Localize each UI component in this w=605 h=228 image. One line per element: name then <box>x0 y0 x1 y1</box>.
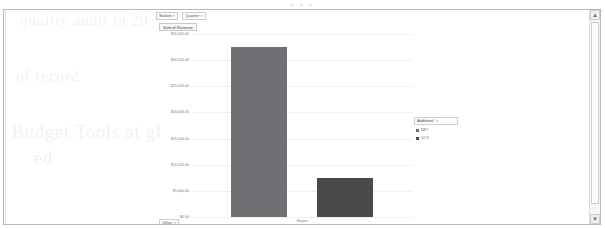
other-control[interactable]: Other ▾ <box>159 219 179 225</box>
legend-items: NETGCS <box>414 128 458 141</box>
y-axis-tick-label: $15,000.00 <box>159 137 189 142</box>
gridline <box>191 217 413 218</box>
legend-swatch-icon <box>416 137 419 140</box>
bar-net[interactable] <box>231 47 287 217</box>
measure-label[interactable]: Sum of Revenue <box>159 23 197 31</box>
plot-area <box>191 34 413 218</box>
filter-row: Station ▾ Quarter ▾ <box>156 12 206 20</box>
chevron-down-icon: ▾ <box>201 13 203 20</box>
filter-pill-quarter-label: Quarter <box>185 12 199 20</box>
chevron-down-icon: ▾ <box>174 220 176 225</box>
page-ghost-top-text: • • • <box>0 0 605 9</box>
gridline <box>191 60 413 61</box>
filter-pill-station[interactable]: Station ▾ <box>156 12 178 20</box>
y-axis-tick-label: $10,000.00 <box>159 163 189 168</box>
legend-item-label: NET <box>421 128 428 133</box>
legend-item-label: GCS <box>421 136 429 141</box>
y-axis-tick-label: $25,000.00 <box>159 84 189 89</box>
other-control-label: Other <box>162 219 172 225</box>
report-viewer-frame: quality audit in 20 of record Budget Too… <box>3 9 601 225</box>
scroll-down-icon[interactable]: ▼ <box>590 214 600 224</box>
y-axis: $35,000.00$30,000.00$25,000.00$20,000.00… <box>157 34 189 218</box>
filter-pill-station-label: Station <box>159 12 171 20</box>
legend-item[interactable]: NET <box>414 128 458 133</box>
scrollbar-thumb[interactable] <box>591 22 599 204</box>
legend-swatch-icon <box>416 129 419 132</box>
gridline <box>191 34 413 35</box>
chevron-down-icon: ▾ <box>174 13 176 20</box>
x-axis-label: Station <box>191 219 413 224</box>
gridline <box>191 139 413 140</box>
legend-item[interactable]: GCS <box>414 136 458 141</box>
gridline <box>191 86 413 87</box>
chevron-down-icon: ▾ <box>436 118 438 125</box>
legend-title-label: Additional <box>417 117 434 125</box>
scroll-up-icon[interactable]: ▲ <box>590 10 600 20</box>
gridline <box>191 112 413 113</box>
y-axis-tick-label: $5,000.00 <box>159 189 189 194</box>
legend-title[interactable]: Additional ▾ <box>414 117 458 125</box>
bar-gcs[interactable] <box>317 178 373 217</box>
dashboard-canvas: Station ▾ Quarter ▾ Sum of Revenue $35,0… <box>4 10 590 224</box>
gridline <box>191 191 413 192</box>
y-axis-tick-label: $20,000.00 <box>159 110 189 115</box>
legend: Additional ▾ NETGCS <box>414 117 458 141</box>
gridline <box>191 165 413 166</box>
page-root: • • • quality audit in 20 of record Budg… <box>0 0 605 228</box>
filter-pill-quarter[interactable]: Quarter ▾ <box>182 12 206 20</box>
y-axis-tick-label: $30,000.00 <box>159 58 189 63</box>
vertical-scrollbar[interactable]: ▲ ▼ <box>589 10 600 224</box>
y-axis-tick-label: $35,000.00 <box>159 32 189 37</box>
